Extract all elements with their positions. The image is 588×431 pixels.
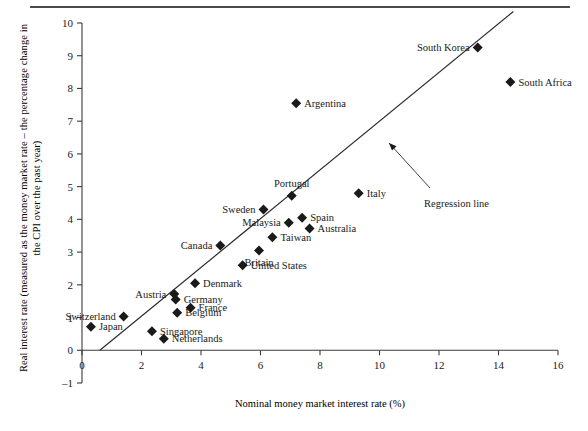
- y-tick-label: 3: [68, 246, 74, 258]
- y-tick-label: 6: [68, 148, 74, 160]
- data-point-marker: [119, 312, 129, 322]
- y-tick-label: 2: [68, 279, 74, 291]
- regression-line-label: Regression line: [424, 198, 489, 209]
- y-tick-label: 0: [68, 344, 74, 356]
- data-point-label: France: [199, 302, 228, 313]
- y-tick-label: 7: [68, 115, 74, 127]
- data-point-marker: [147, 326, 157, 336]
- x-tick-label: 14: [493, 359, 505, 371]
- data-point-label: Sweden: [222, 204, 256, 215]
- data-point-label: Austria: [135, 289, 166, 300]
- data-point-label: Australia: [318, 223, 357, 234]
- data-point-label: Taiwan: [280, 232, 312, 243]
- data-point-marker: [284, 218, 294, 228]
- scatter-plot: –10123456789100246810121416Regression li…: [0, 0, 588, 431]
- chart-figure: Real interest rate (measured as the mone…: [0, 0, 588, 431]
- data-point-marker: [354, 188, 364, 198]
- data-point-marker: [297, 213, 307, 223]
- x-tick-label: 16: [553, 359, 565, 371]
- data-point-label: Netherlands: [172, 333, 223, 344]
- data-point-marker: [505, 77, 515, 87]
- data-point-label: South Africa: [518, 77, 572, 88]
- data-point-label: Britain: [244, 257, 274, 268]
- data-point-label: Spain: [310, 212, 335, 223]
- x-tick-label: 10: [374, 359, 386, 371]
- data-point-label: Argentina: [304, 98, 346, 109]
- x-tick-label: 2: [139, 359, 145, 371]
- x-tick-label: 6: [258, 359, 264, 371]
- y-tick-label: 10: [62, 17, 74, 29]
- data-point-marker: [287, 191, 297, 201]
- data-point-label: Switzerland: [65, 311, 116, 322]
- y-tick-label: 8: [68, 82, 74, 94]
- y-tick-label: 4: [68, 213, 74, 225]
- data-point-label: Malaysia: [242, 217, 281, 228]
- x-tick-label: 4: [198, 359, 204, 371]
- data-point-label: Portugal: [274, 178, 310, 189]
- y-tick-label: 9: [68, 50, 74, 62]
- regression-annotation-arrowhead: [389, 143, 397, 150]
- data-point-marker: [190, 278, 200, 288]
- x-tick-label: 12: [434, 359, 445, 371]
- x-tick-label: 0: [79, 359, 85, 371]
- y-tick-label: 5: [68, 181, 74, 193]
- data-point-label: Japan: [99, 321, 124, 332]
- data-point-label: Italy: [367, 188, 387, 199]
- data-point-marker: [291, 98, 301, 108]
- data-point-label: Denmark: [203, 278, 243, 289]
- regression-annotation-arrow: [389, 143, 430, 188]
- data-point-label: Canada: [181, 240, 213, 251]
- data-point-marker: [86, 322, 96, 332]
- y-tick-label: –1: [61, 377, 73, 389]
- data-point-marker: [172, 308, 182, 318]
- data-point-label: South Korea: [417, 42, 470, 53]
- data-point-marker: [254, 245, 264, 255]
- data-point-marker: [267, 232, 277, 242]
- x-tick-label: 8: [317, 359, 323, 371]
